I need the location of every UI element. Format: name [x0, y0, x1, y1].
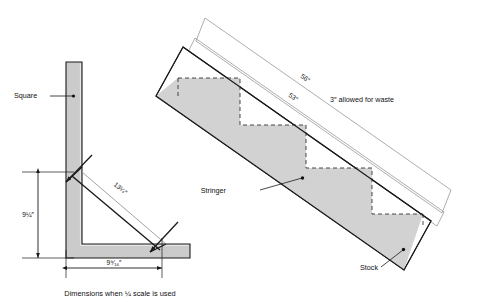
- figure-canvas: 13¼″ 9¼″ 9⁹⁄₁₆″ Square Dimensions when ¼…: [0, 0, 482, 308]
- stock-stringer-group: 56″ 53″ 3″ allowed for waste Stringer St…: [156, 18, 451, 272]
- diagonal-dimension-label: 13¼″: [113, 181, 130, 197]
- inner-length-label: 53″: [287, 91, 299, 103]
- square-label: Square: [14, 91, 37, 100]
- stock-leader-dot: [402, 248, 405, 251]
- stringer-fill-group: [156, 47, 431, 270]
- diagonal-dimension-line: [82, 172, 166, 244]
- diagonal-dimension-label-group: 13¼″: [113, 181, 130, 197]
- run-dimension-label: 9⁹⁄₁₆″: [107, 259, 122, 266]
- waste-label: 3″ allowed for waste: [330, 95, 394, 104]
- technical-diagram: 13¼″ 9¼″ 9⁹⁄₁₆″ Square Dimensions when ¼…: [0, 0, 482, 308]
- inner-length-label-group: 53″: [287, 91, 299, 103]
- stringer-label: Stringer: [201, 186, 227, 195]
- rise-dimension-label: 9¼″: [22, 211, 34, 218]
- stock-label: Stock: [360, 263, 378, 272]
- outer-length-label: 56″: [299, 72, 311, 84]
- stringer-leader-dot: [301, 176, 304, 179]
- square-leader-dot: [72, 94, 75, 97]
- left-view-caption: Dimensions when ¼ scale is used: [64, 289, 175, 298]
- outer-length-label-group: 56″: [299, 72, 311, 84]
